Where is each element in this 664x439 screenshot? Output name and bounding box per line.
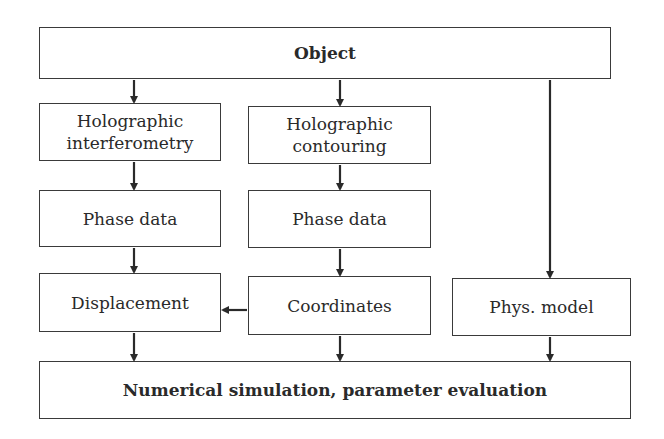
arrows-layer	[0, 0, 664, 439]
